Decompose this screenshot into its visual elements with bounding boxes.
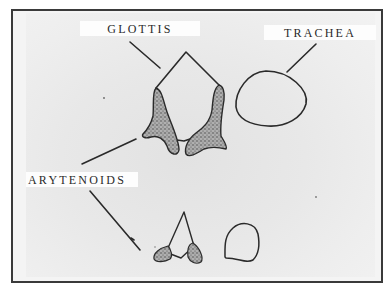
larynx-diagram — [0, 0, 391, 293]
glottis-leader-line — [130, 42, 160, 68]
arytenoid-right-upper — [185, 85, 226, 156]
trachea-leader-line — [287, 44, 316, 72]
arytenoid-left-lower — [154, 246, 172, 262]
glottis-label: GLOTTIS — [80, 21, 200, 36]
glottis-narrow-figure — [154, 212, 202, 263]
arytenoids-leader-line-lower — [90, 191, 140, 250]
arytenoids-label: ARYTENOIDS — [26, 172, 138, 187]
trachea-lower-outline — [225, 224, 259, 262]
glottis-open-figure — [142, 52, 226, 156]
arytenoid-right-lower — [188, 243, 202, 263]
trachea-upper-outline — [236, 71, 306, 126]
arytenoids-leader-line-upper — [82, 139, 136, 164]
trachea-label: TRACHEA — [264, 25, 376, 40]
arytenoid-left-upper — [142, 88, 179, 154]
